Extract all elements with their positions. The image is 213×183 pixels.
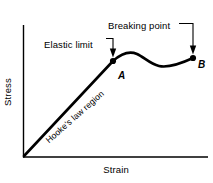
breaking-point-leader-line <box>179 24 193 47</box>
breaking-point-arrowhead <box>190 46 196 55</box>
elastic-limit-leader-line <box>106 39 113 51</box>
stress-strain-diagram: Stress Strain Elastic limit Breaking poi… <box>0 0 213 183</box>
point-b-marker <box>190 55 196 61</box>
breaking-point-annotation: Breaking point <box>108 21 170 31</box>
elastic-limit-arrowhead <box>110 49 116 58</box>
diagram-canvas <box>0 0 213 183</box>
point-a-marker <box>110 58 116 64</box>
point-a-label: A <box>118 71 125 81</box>
hookes-law-line-segment <box>24 61 113 156</box>
elastic-limit-annotation: Elastic limit <box>44 40 93 50</box>
plastic-region-curve <box>113 52 193 66</box>
point-b-label: B <box>198 60 205 70</box>
x-axis-label: Strain <box>103 165 129 175</box>
y-axis-label: Stress <box>3 78 13 106</box>
